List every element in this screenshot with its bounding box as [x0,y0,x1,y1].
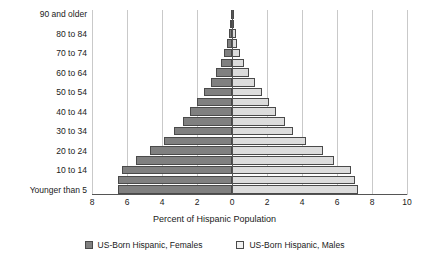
bar-female [118,176,232,185]
bar-female [216,68,232,77]
bar-female [164,137,232,146]
gridline [407,10,408,195]
legend-swatch-females-icon [85,241,93,249]
x-axis-tick-label: 4 [300,197,305,207]
bar-male [232,176,355,185]
x-axis-tick-label: 4 [160,197,165,207]
y-axis-tick-label: 10 to 14 [56,166,87,175]
x-axis-tick-label: 8 [90,197,95,207]
bar-row [92,146,407,155]
y-axis-tick-label: 20 to 24 [56,147,87,156]
chart-legend: US-Born Hispanic, Females US-Born Hispan… [0,240,429,250]
bar-row [92,59,407,68]
bar-female [190,107,232,116]
bar-row [92,117,407,126]
legend-item-males: US-Born Hispanic, Males [236,240,344,250]
bar-row [92,78,407,87]
bar-female [211,78,232,87]
bar-male [232,107,276,116]
x-axis-tick-label: 6 [335,197,340,207]
bar-female [174,127,232,136]
x-axis-tick-label: 0 [230,197,235,207]
bar-male [232,68,249,77]
bar-row [92,176,407,185]
zero-axis-line [232,10,233,195]
bar-row [92,29,407,38]
bar-row [92,39,407,48]
bar-row [92,185,407,194]
bar-row [92,98,407,107]
x-axis-tick-label: 2 [265,197,270,207]
bar-male [232,59,244,68]
bar-row [92,137,407,146]
x-axis-title: Percent of Hispanic Population [0,214,429,224]
bar-female [224,49,232,58]
x-axis-label-group: 86420246810 [92,197,407,211]
bar-male [232,127,293,136]
bar-male [232,156,334,165]
bar-female [122,166,232,175]
bar-male [232,98,269,107]
bar-row [92,107,407,116]
bar-row [92,127,407,136]
bar-female [136,156,232,165]
bar-row [92,166,407,175]
bar-female [221,59,232,68]
legend-label-males: US-Born Hispanic, Males [249,240,344,250]
population-pyramid-chart: Younger than 510 to 1420 to 2430 to 3440… [0,0,429,266]
x-axis-tick-label: 6 [125,197,130,207]
y-axis-tick-label: 80 to 84 [56,30,87,39]
legend-swatch-males-icon [236,241,244,249]
x-axis-tick-label: 10 [402,197,411,207]
bar-row [92,88,407,97]
bar-row [92,156,407,165]
bar-male [232,78,255,87]
bar-male [232,117,285,126]
y-axis-label-group: Younger than 510 to 1420 to 2430 to 3440… [0,10,87,195]
bar-female [204,88,232,97]
y-axis-tick-label: 60 to 64 [56,69,87,78]
bar-female [150,146,232,155]
y-axis-tick-label: 50 to 54 [56,88,87,97]
y-axis-tick-label: Younger than 5 [30,186,87,195]
x-axis-tick-label: 2 [195,197,200,207]
bar-male [232,146,323,155]
x-axis-tick-label: 8 [370,197,375,207]
bar-male [232,166,351,175]
bar-row [92,10,407,19]
bar-female [197,98,232,107]
y-axis-tick-label: 90 and older [40,10,87,19]
plot-area [92,10,407,195]
bar-row [92,20,407,29]
legend-item-females: US-Born Hispanic, Females [85,240,203,250]
bar-female [118,185,232,194]
legend-label-females: US-Born Hispanic, Females [98,240,203,250]
y-axis-tick-label: 30 to 34 [56,127,87,136]
bar-male [232,185,358,194]
bar-row [92,68,407,77]
y-axis-tick-label: 40 to 44 [56,108,87,117]
bar-male [232,137,306,146]
x-axis-line [92,194,407,195]
bar-female [183,117,232,126]
bar-male [232,49,240,58]
bar-row [92,49,407,58]
y-axis-tick-label: 70 to 74 [56,49,87,58]
bar-male [232,88,262,97]
